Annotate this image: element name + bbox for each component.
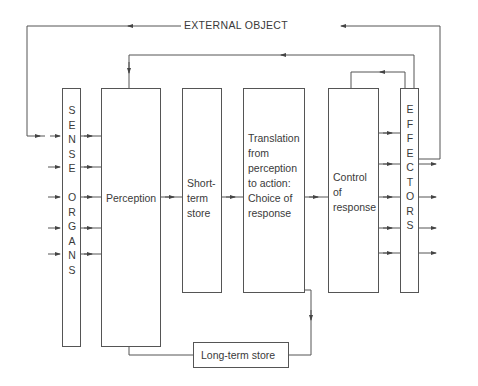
- long-term-store-box: Long-term store: [193, 342, 289, 368]
- letter: F: [401, 131, 419, 146]
- sense-organs-box: SENSE ORGANS: [62, 88, 81, 347]
- long-term-store-label: Long-term store: [201, 348, 275, 363]
- letter: S: [63, 147, 81, 162]
- translation-box: Translation from perception to action: C…: [243, 88, 305, 293]
- effectors-box: EFFECTORS: [400, 88, 419, 293]
- letter: [63, 176, 81, 191]
- letter: G: [63, 219, 81, 234]
- letter: O: [63, 190, 81, 205]
- letter: S: [401, 218, 419, 233]
- short-term-store-label: Short- term store: [187, 176, 216, 221]
- letter: A: [63, 234, 81, 249]
- letter: E: [63, 118, 81, 133]
- letter: S: [63, 263, 81, 278]
- external-object-label: EXTERNAL OBJECT: [181, 19, 291, 31]
- control-of-response-label: Control of response: [333, 170, 376, 215]
- letter: S: [63, 103, 81, 118]
- short-term-store-box: Short- term store: [182, 88, 222, 293]
- effectors-label: EFFECTORS: [401, 102, 419, 233]
- letter: R: [401, 204, 419, 219]
- control-of-response-box: Control of response: [328, 88, 379, 293]
- letter: E: [63, 161, 81, 176]
- perception-label: Perception: [106, 191, 156, 206]
- letter: E: [401, 146, 419, 161]
- letter: R: [63, 205, 81, 220]
- sense-organs-label: SENSE ORGANS: [63, 103, 81, 277]
- letter: N: [63, 132, 81, 147]
- letter: C: [401, 160, 419, 175]
- translation-label: Translation from perception to action: C…: [248, 131, 300, 221]
- letter: E: [401, 102, 419, 117]
- letter: T: [401, 175, 419, 190]
- letter: O: [401, 189, 419, 204]
- letter: F: [401, 117, 419, 132]
- perception-box: Perception: [101, 88, 161, 347]
- letter: N: [63, 248, 81, 263]
